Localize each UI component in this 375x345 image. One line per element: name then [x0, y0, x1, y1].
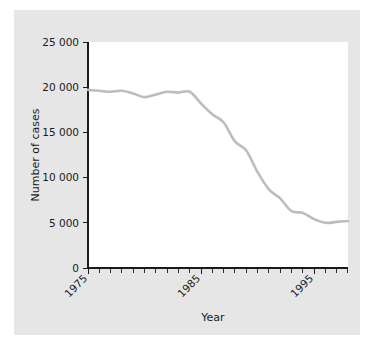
line-chart: 0 5 000 10 000 15 000 20 000 25 000: [0, 0, 375, 345]
y-tick-label: 10 000: [42, 171, 79, 183]
x-axis-ticks: [88, 268, 348, 274]
y-tick-label: 5 000: [49, 217, 79, 229]
y-axis-ticks: [83, 42, 88, 268]
x-tick-label: 1975: [62, 272, 89, 299]
y-axis-title: Number of cases: [29, 108, 42, 201]
x-axis-tick-labels: 1975 1985 1995: [62, 272, 315, 299]
y-tick-label: 0: [72, 262, 79, 274]
x-axis-title: Year: [200, 311, 225, 324]
chart-figure: 0 5 000 10 000 15 000 20 000 25 000: [0, 0, 375, 345]
y-axis-tick-labels: 0 5 000 10 000 15 000 20 000 25 000: [42, 36, 79, 274]
y-tick-label: 25 000: [42, 36, 79, 48]
x-tick-label: 1985: [175, 272, 202, 299]
y-tick-label: 20 000: [42, 81, 79, 93]
plot-area-background: [88, 42, 348, 268]
y-tick-label: 15 000: [42, 126, 79, 138]
x-tick-label: 1995: [288, 272, 315, 299]
